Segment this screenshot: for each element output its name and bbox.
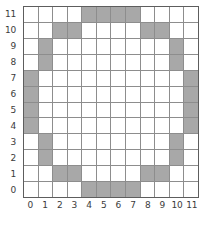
- grid-cell-filled: [24, 118, 39, 134]
- grid-cell-empty: [97, 118, 112, 134]
- grid-cell-empty: [184, 55, 199, 71]
- grid-cell-empty: [126, 55, 141, 71]
- grid-cell-empty: [82, 118, 97, 134]
- grid-cell-empty: [53, 7, 68, 23]
- grid-cell-empty: [68, 7, 83, 23]
- x-tick-label: 0: [23, 201, 38, 221]
- grid-cell-filled: [39, 134, 54, 150]
- grid-cell-filled: [82, 182, 97, 198]
- grid-cell-filled: [82, 7, 97, 23]
- grid-cell-empty: [68, 39, 83, 55]
- grid-cell-empty: [141, 103, 156, 119]
- y-tick-label: 2: [0, 150, 19, 166]
- grid-cell-empty: [155, 87, 170, 103]
- grid-cell-empty: [97, 150, 112, 166]
- grid-cell-empty: [53, 55, 68, 71]
- grid-cell-filled: [53, 166, 68, 182]
- y-tick-label: 11: [0, 6, 19, 22]
- grid-cell-empty: [111, 103, 126, 119]
- grid-cell-empty: [170, 7, 185, 23]
- grid-cell-empty: [24, 39, 39, 55]
- grid-cell-empty: [141, 134, 156, 150]
- grid-cell-empty: [39, 7, 54, 23]
- grid-cell-empty: [141, 7, 156, 23]
- grid-cell-empty: [39, 23, 54, 39]
- grid-cell-empty: [82, 134, 97, 150]
- grid-cell-empty: [126, 87, 141, 103]
- grid-cell-filled: [155, 23, 170, 39]
- grid-cell-empty: [39, 182, 54, 198]
- x-tick-label: 9: [155, 201, 170, 221]
- grid-cell-empty: [184, 134, 199, 150]
- grid-figure: 11109876543210 01234567891011: [0, 0, 215, 229]
- x-axis: 01234567891011: [23, 201, 199, 221]
- grid-cell-empty: [68, 134, 83, 150]
- grid-cell-empty: [155, 55, 170, 71]
- grid-cell-empty: [97, 71, 112, 87]
- y-tick-label: 9: [0, 38, 19, 54]
- x-tick-label: 1: [38, 201, 53, 221]
- grid-cell-empty: [39, 103, 54, 119]
- grid-cell-empty: [126, 118, 141, 134]
- grid-cell-empty: [184, 23, 199, 39]
- y-tick-label: 0: [0, 182, 19, 198]
- grid-cell-empty: [82, 55, 97, 71]
- grid-cell-empty: [155, 103, 170, 119]
- grid-cell-empty: [53, 182, 68, 198]
- x-tick-label: 6: [111, 201, 126, 221]
- grid-cell-empty: [82, 71, 97, 87]
- grid-cell-empty: [141, 182, 156, 198]
- grid-cell-filled: [53, 23, 68, 39]
- grid-cell-empty: [24, 182, 39, 198]
- grid-cell-empty: [53, 87, 68, 103]
- grid-cell-empty: [155, 134, 170, 150]
- grid-cell-empty: [111, 166, 126, 182]
- grid-cell-empty: [68, 87, 83, 103]
- grid-cell-filled: [184, 118, 199, 134]
- grid-cell-filled: [97, 182, 112, 198]
- y-tick-label: 6: [0, 86, 19, 102]
- grid-cell-filled: [170, 150, 185, 166]
- grid-cell-empty: [155, 182, 170, 198]
- grid-cell-empty: [141, 118, 156, 134]
- grid-cell-empty: [53, 39, 68, 55]
- grid-cell-empty: [184, 39, 199, 55]
- grid-cell-empty: [170, 118, 185, 134]
- grid-cell-empty: [68, 55, 83, 71]
- grid-cell-empty: [184, 166, 199, 182]
- grid-cell-filled: [184, 87, 199, 103]
- grid-cell-filled: [111, 182, 126, 198]
- grid-cell-empty: [155, 118, 170, 134]
- grid-cell-empty: [111, 118, 126, 134]
- grid-cell-empty: [24, 166, 39, 182]
- grid-cell-empty: [111, 55, 126, 71]
- grid-cell-filled: [170, 55, 185, 71]
- x-tick-label: 3: [67, 201, 82, 221]
- y-tick-label: 7: [0, 70, 19, 86]
- grid-cell-filled: [68, 166, 83, 182]
- grid-cell-empty: [82, 150, 97, 166]
- grid-cell-empty: [111, 134, 126, 150]
- y-tick-label: 10: [0, 22, 19, 38]
- grid-cell-filled: [141, 23, 156, 39]
- grid-cell-empty: [126, 39, 141, 55]
- grid-cell-empty: [126, 23, 141, 39]
- grid-cell-empty: [68, 103, 83, 119]
- x-tick-label: 10: [170, 201, 185, 221]
- grid-cell-empty: [82, 103, 97, 119]
- grid-cell-empty: [53, 71, 68, 87]
- grid-cell-empty: [126, 103, 141, 119]
- grid-cell-filled: [24, 71, 39, 87]
- grid-cell-empty: [184, 150, 199, 166]
- grid-cell-empty: [97, 134, 112, 150]
- grid-cell-empty: [111, 39, 126, 55]
- x-tick-label: 4: [82, 201, 97, 221]
- grid-cell-empty: [82, 23, 97, 39]
- grid-plot-area: [23, 6, 199, 198]
- grid-cell-empty: [39, 118, 54, 134]
- grid-cell-empty: [97, 39, 112, 55]
- grid-cell-empty: [53, 134, 68, 150]
- grid-cell-empty: [111, 150, 126, 166]
- grid-cell-empty: [155, 150, 170, 166]
- y-axis: 11109876543210: [0, 6, 19, 198]
